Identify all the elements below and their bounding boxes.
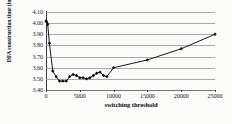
x-tick-mark: [147, 90, 148, 92]
gridline: [46, 90, 215, 91]
chart-figure: 4.104.003.903.803.703.603.503.40 0500010…: [0, 0, 232, 124]
y-tick-label: 3.60: [33, 65, 43, 71]
x-tick-label: 15000: [140, 92, 155, 99]
y-tick-label: 4.00: [33, 20, 43, 26]
y-tick-label: 3.50: [33, 76, 43, 82]
data-point-marker: [85, 77, 88, 80]
y-tick-label: 3.90: [33, 31, 43, 37]
x-tick-label: 25000: [208, 92, 223, 99]
data-point-marker: [81, 76, 84, 79]
x-axis-title: switching threshold: [46, 101, 216, 108]
data-point-marker: [146, 58, 149, 61]
series-markers: [44, 19, 216, 83]
data-point-marker: [180, 47, 183, 50]
data-point-marker: [213, 33, 216, 36]
series-line: [46, 21, 215, 81]
x-tick-mark: [80, 90, 81, 92]
y-tick-label: 4.10: [33, 9, 43, 15]
y-axis-title-wrapper: DFA construction time (in seconds): [6, 0, 18, 64]
data-point-marker: [48, 42, 51, 45]
x-tick-label: 10000: [106, 92, 121, 99]
x-tick-mark: [215, 90, 216, 92]
data-point-marker: [61, 79, 64, 82]
x-tick-mark: [181, 90, 182, 92]
x-tick-label: 20000: [174, 92, 189, 99]
y-tick-label: 3.40: [33, 87, 43, 93]
x-tick-label: 0: [45, 92, 48, 99]
plot-area: [46, 12, 215, 90]
x-tick-label: 5000: [74, 92, 86, 99]
y-axis-title: DFA construction time (in seconds): [6, 0, 12, 64]
x-tick-mark: [46, 90, 47, 92]
y-tick-label: 3.80: [33, 42, 43, 48]
data-series-layer: [46, 12, 215, 90]
y-tick-label: 3.70: [33, 54, 43, 60]
x-tick-mark: [114, 90, 115, 92]
